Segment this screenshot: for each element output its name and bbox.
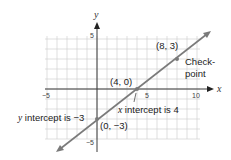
y-axis-label: y [93,9,99,20]
graph-line [60,34,207,149]
point-label-0-neg3: (0, −3) [100,120,128,131]
y-tick-label-neg5: −5 [86,139,94,146]
line-graph: x y −5 5 10 5 −5 (0, −3) (4, 0) (8, 3) y… [0,0,231,160]
x-intercept-annotation: x intercept is 4 [117,104,179,115]
point-label-4-0: (4, 0) [110,76,132,87]
point-8-3 [175,57,179,61]
x-axis-arrow-icon [207,86,214,92]
point-4-0 [135,87,139,91]
y-intercept-annotation: y intercept is −3 [17,112,84,123]
y-axis-arrow-icon [94,22,100,29]
checkpoint-annotation-line1: Check- [185,56,215,67]
x-tick-label-5: 5 [145,92,149,99]
x-axis-label: x [216,83,222,94]
x-tick-label-10: 10 [192,92,200,99]
x-intercept-leader-line [134,93,136,102]
x-tick-label-neg5: −5 [42,92,50,99]
point-label-8-3: (8, 3) [156,40,178,51]
point-0-neg3 [95,117,99,121]
checkpoint-annotation-line2: point [185,68,206,79]
y-tick-label-5: 5 [90,32,94,39]
